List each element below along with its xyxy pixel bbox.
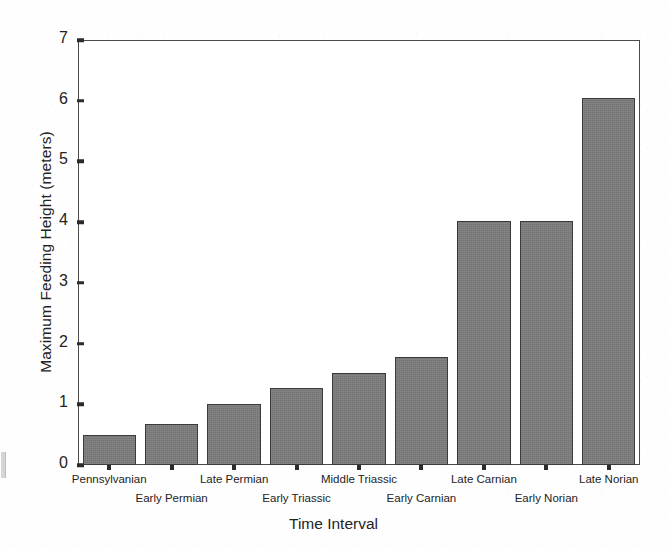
x-tick-mark bbox=[295, 465, 299, 470]
x-tick-label: Pennsylvanian bbox=[72, 473, 147, 485]
x-tick-label: Early Triassic bbox=[262, 492, 330, 504]
x-tick-label: Early Carnian bbox=[387, 492, 457, 504]
bar[interactable] bbox=[332, 373, 385, 465]
x-tick-mark bbox=[482, 465, 486, 470]
bar-chart-figure: Maximum Feeding Height (meters) 01234567… bbox=[0, 0, 667, 547]
y-tick-mark bbox=[77, 342, 84, 346]
y-tick-label: 2 bbox=[44, 333, 68, 351]
y-axis-title: Maximum Feeding Height (meters) bbox=[37, 102, 55, 402]
y-tick-mark bbox=[77, 281, 84, 285]
y-tick-label: 3 bbox=[44, 272, 68, 290]
x-tick-mark bbox=[357, 465, 361, 470]
x-tick-label: Late Carnian bbox=[451, 473, 517, 485]
x-tick-label: Late Permian bbox=[200, 473, 268, 485]
y-tick-mark bbox=[77, 38, 84, 42]
bar[interactable] bbox=[457, 221, 510, 465]
y-tick-label: 7 bbox=[44, 29, 68, 47]
bar[interactable] bbox=[520, 221, 573, 465]
bar[interactable] bbox=[83, 435, 136, 465]
scan-edge-artifact bbox=[1, 452, 6, 478]
bar[interactable] bbox=[207, 404, 260, 465]
x-tick-label: Early Norian bbox=[515, 492, 578, 504]
bar[interactable] bbox=[582, 98, 635, 465]
x-tick-label: Late Norian bbox=[579, 473, 638, 485]
x-tick-label: Early Permian bbox=[136, 492, 208, 504]
y-tick-mark bbox=[77, 403, 84, 407]
y-tick-label: 1 bbox=[44, 393, 68, 411]
y-tick-label: 0 bbox=[44, 454, 68, 472]
y-tick-mark bbox=[77, 160, 84, 164]
x-tick-mark bbox=[170, 465, 174, 470]
x-tick-mark bbox=[107, 465, 111, 470]
y-tick-mark bbox=[77, 220, 84, 224]
bar[interactable] bbox=[270, 388, 323, 465]
x-tick-label: Middle Triassic bbox=[321, 473, 397, 485]
y-tick-label: 5 bbox=[44, 150, 68, 168]
bar[interactable] bbox=[395, 357, 448, 465]
y-tick-label: 4 bbox=[44, 211, 68, 229]
bar[interactable] bbox=[145, 424, 198, 465]
x-tick-mark bbox=[419, 465, 423, 470]
x-tick-mark bbox=[544, 465, 548, 470]
x-axis-title: Time Interval bbox=[0, 515, 667, 533]
y-tick-label: 6 bbox=[44, 90, 68, 108]
x-tick-mark bbox=[232, 465, 236, 470]
y-tick-mark bbox=[77, 99, 84, 103]
x-tick-mark bbox=[607, 465, 611, 470]
